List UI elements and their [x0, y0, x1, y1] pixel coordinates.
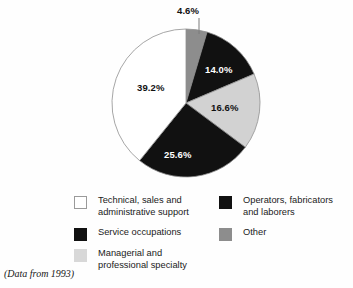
legend-swatch-icon: [74, 196, 87, 209]
pie-chart-figure: 4.6% 14.0% 16.6% 25.6% 39.2% Technical, …: [0, 0, 353, 288]
slice-label-operators: 14.0%: [205, 65, 232, 75]
legend-item-other: Other: [219, 227, 266, 241]
slice-label-other: 4.6%: [177, 6, 199, 16]
legend-item-technical-sales-administrative: Technical, sales and administrative supp…: [74, 195, 189, 218]
legend-swatch-icon: [219, 228, 232, 241]
pie-chart-svg: [0, 0, 353, 190]
legend-item-managerial-professional: Managerial and professional specialty: [74, 248, 187, 271]
legend-item-label: Service occupations: [98, 227, 181, 239]
slice-label-service: 25.6%: [164, 150, 191, 160]
legend-item-label: Technical, sales and administrative supp…: [98, 195, 189, 218]
pie-chart-area: 4.6% 14.0% 16.6% 25.6% 39.2%: [0, 0, 353, 190]
legend-item-label: Other: [243, 227, 266, 239]
legend-item-label: Managerial and professional specialty: [98, 248, 187, 271]
legend-swatch-icon: [219, 196, 232, 209]
legend-swatch-icon: [74, 249, 87, 262]
slice-label-technical: 39.2%: [137, 83, 164, 93]
legend-item-label: Operators, fabricators and laborers: [243, 195, 333, 218]
slice-label-managerial: 16.6%: [211, 103, 238, 113]
legend-item-service-occupations: Service occupations: [74, 227, 181, 241]
figure-caption: (Data from 1993): [4, 268, 74, 279]
legend-swatch-icon: [74, 228, 87, 241]
legend-item-operators-fabricators-laborers: Operators, fabricators and laborers: [219, 195, 333, 218]
